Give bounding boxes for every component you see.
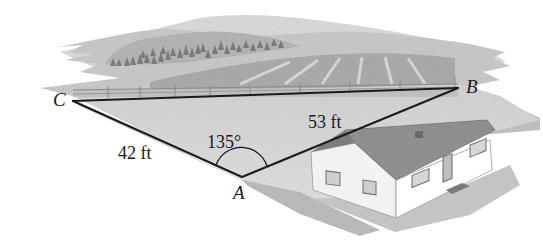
window — [326, 171, 340, 186]
door — [443, 153, 452, 182]
angle-label-a: 135° — [207, 133, 241, 151]
side-label-ab: 53 ft — [308, 113, 342, 131]
vertex-label-b: B — [466, 77, 478, 96]
triangle-scene — [0, 0, 543, 252]
vertex-label-a: A — [233, 183, 245, 202]
vertex-label-c: C — [53, 90, 66, 109]
side-label-ca: 42 ft — [118, 144, 152, 162]
chimney — [415, 131, 423, 138]
window — [363, 180, 376, 195]
